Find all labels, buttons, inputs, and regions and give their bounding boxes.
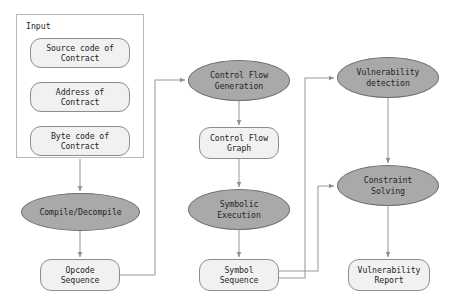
node-symbol-sequence[interactable]: Symbol Sequence bbox=[199, 259, 279, 291]
node-control-flow-generation[interactable]: Control Flow Generation bbox=[188, 60, 290, 101]
node-constraint-solving[interactable]: Constraint Solving bbox=[337, 165, 439, 206]
input-group-label: Input bbox=[26, 21, 51, 31]
edge-symbolseq-to-constraint bbox=[279, 186, 334, 271]
node-opcode-sequence[interactable]: Opcode Sequence bbox=[40, 259, 120, 291]
node-byte-code[interactable]: Byte code of Contract bbox=[30, 126, 130, 156]
node-vulnerability-detection[interactable]: Vulnerability detection bbox=[337, 57, 439, 98]
node-symbolic-execution[interactable]: Symbolic Execution bbox=[188, 189, 290, 230]
edge-symbolseq-to-vulndetect bbox=[279, 78, 334, 278]
node-control-flow-graph[interactable]: Control Flow Graph bbox=[199, 127, 279, 159]
flowchart-canvas: Input Source code of Contract Address of… bbox=[0, 0, 455, 308]
node-source-code[interactable]: Source code of Contract bbox=[30, 38, 130, 68]
node-compile-decompile[interactable]: Compile/Decompile bbox=[21, 193, 140, 231]
node-address[interactable]: Address of Contract bbox=[30, 82, 130, 112]
node-vulnerability-report[interactable]: Vulnerability Report bbox=[348, 259, 430, 291]
